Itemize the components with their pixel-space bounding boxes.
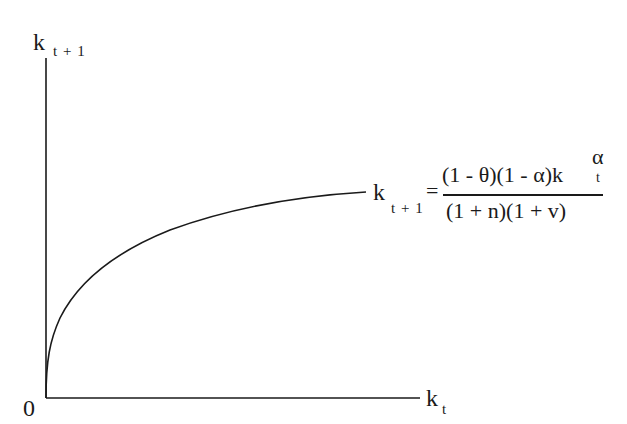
equation-numerator-superscript: α: [592, 146, 604, 168]
curve-label-lhs: k: [373, 180, 385, 204]
equation-numerator: (1 - θ)(1 - α)k: [442, 164, 563, 186]
curve-label-equals: =: [426, 180, 438, 202]
x-axis-label-main: k: [426, 385, 438, 411]
fraction-bar: [443, 194, 603, 196]
x-axis-label: k: [426, 386, 438, 410]
y-axis-label: k: [33, 30, 45, 54]
y-axis-label-main: k: [33, 29, 45, 55]
origin-label: 0: [23, 396, 35, 420]
equation-denominator: (1 + n)(1 + v): [446, 200, 566, 222]
y-axis-label-subscript: t + 1: [53, 44, 86, 59]
x-axis-label-subscript: t: [442, 402, 447, 417]
curve-label-lhs-subscript: t + 1: [391, 201, 424, 216]
capital-accumulation-curve: [46, 192, 366, 398]
equation-numerator-subscript: t: [596, 171, 600, 185]
